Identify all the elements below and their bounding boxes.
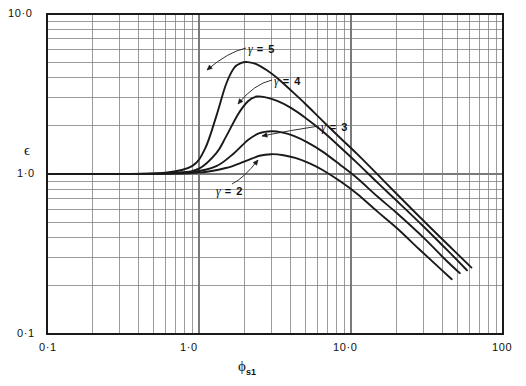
- curve-4: [47, 154, 452, 279]
- gamma-value-2: = 4: [279, 75, 302, 87]
- curve-label-gamma-4: γ = 4: [274, 74, 301, 89]
- curve-2: [47, 96, 467, 270]
- chart-canvas: [0, 0, 526, 386]
- curve-label-gamma-5: γ = 5: [248, 42, 275, 57]
- leader-arrow-3: [262, 133, 267, 137]
- x-axis-title-symbol: ϕ: [238, 358, 246, 374]
- curve-label-gamma-3: γ = 3: [321, 120, 348, 135]
- curve-1: [47, 62, 471, 268]
- xtick-0.1: 0·1: [39, 341, 57, 353]
- ytick-1: 1·0: [17, 167, 35, 179]
- y-axis-title: ϵ: [24, 142, 30, 159]
- gamma-value-1: = 5: [253, 43, 276, 55]
- ytick-10: 10·0: [8, 7, 32, 19]
- figure-root: 10·0 1·0 0·1 0·1 1·0 10·0 100 ϵ ϕs1 γ = …: [0, 0, 526, 386]
- gamma-value-3: = 3: [326, 121, 349, 133]
- ytick-0.1: 0·1: [17, 327, 35, 339]
- data-curves: [47, 62, 471, 279]
- leader-1: [207, 48, 246, 70]
- curve-label-gamma-2: γ = 2: [216, 184, 243, 199]
- x-axis-title-subscript: s1: [246, 367, 256, 377]
- xtick-1: 1·0: [180, 341, 198, 353]
- x-axis-title: ϕs1: [238, 358, 256, 377]
- gamma-value-4: = 2: [221, 185, 244, 197]
- xtick-10: 10·0: [333, 341, 357, 353]
- leader-2: [238, 80, 272, 104]
- xtick-100: 100: [492, 341, 512, 353]
